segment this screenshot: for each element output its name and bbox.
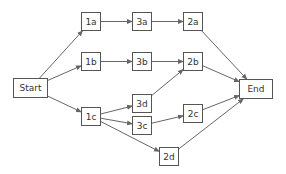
network-diagram: Start1a1b1c3a3b3d3c2a2b2c2dEnd xyxy=(0,0,286,174)
edge-2c-to-end xyxy=(203,96,239,110)
node-1a: 1a xyxy=(81,12,101,31)
edge-start-to-1c xyxy=(48,96,81,112)
node-3c: 3c xyxy=(132,116,152,135)
edge-2b-to-end xyxy=(203,66,239,82)
node-2d: 2d xyxy=(159,147,179,166)
node-3b: 3b xyxy=(132,52,152,71)
node-1b: 1b xyxy=(81,52,101,71)
node-2b: 2b xyxy=(183,52,203,71)
node-2a: 2a xyxy=(183,12,203,31)
edge-1c-to-3c xyxy=(101,118,132,123)
edge-3d-to-2b xyxy=(152,70,183,96)
node-end: End xyxy=(239,79,273,99)
node-1c: 1c xyxy=(81,107,101,126)
node-2c: 2c xyxy=(183,104,203,123)
edge-2a-to-end xyxy=(202,31,247,79)
edge-1c-to-3d xyxy=(101,106,132,114)
edge-3c-to-2c xyxy=(152,116,183,123)
node-3a: 3a xyxy=(132,12,152,31)
edge-start-to-1a xyxy=(40,31,83,78)
node-3d: 3d xyxy=(132,94,152,113)
node-start: Start xyxy=(13,78,48,98)
edge-start-to-1b xyxy=(48,66,81,80)
